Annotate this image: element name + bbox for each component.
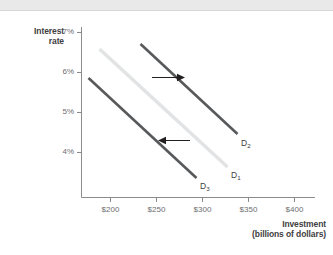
curve-d2 [141, 44, 238, 134]
curve-label-d3: D3 [200, 181, 210, 191]
x-tick-label-200: $200 [89, 205, 133, 214]
curve-label-d2: D2 [241, 138, 251, 148]
y-tick-label-7: 7% [48, 27, 74, 36]
y-tick-label-5: 5% [48, 107, 74, 116]
y-axis-title-line2: rate [8, 36, 64, 46]
shift-left-arrow [158, 137, 190, 144]
plot-area: Interest rate Investment (billions of do… [0, 0, 333, 255]
curve-d3 [89, 78, 197, 178]
y-tick-label-6: 6% [48, 67, 74, 76]
x-axis-title-units: (billions of dollars) [170, 229, 326, 239]
x-axis-title-main: Investment [170, 219, 326, 229]
x-tick-label-250: $250 [135, 205, 179, 214]
x-tick-label-350: $350 [227, 205, 271, 214]
y-tick-label-4: 4% [48, 147, 74, 156]
curve-label-d2-subscript: 2 [247, 142, 250, 149]
curve-label-d1: D1 [231, 170, 241, 180]
x-tick-label-400: $400 [273, 205, 317, 214]
x-tick-label-300: $300 [181, 205, 225, 214]
curve-label-d3-subscript: 3 [206, 185, 209, 192]
x-axis-title: Investment (billions of dollars) [170, 219, 326, 239]
investment-demand-chart: Interest rate Investment (billions of do… [0, 0, 333, 255]
curve-label-d1-subscript: 1 [237, 174, 240, 181]
